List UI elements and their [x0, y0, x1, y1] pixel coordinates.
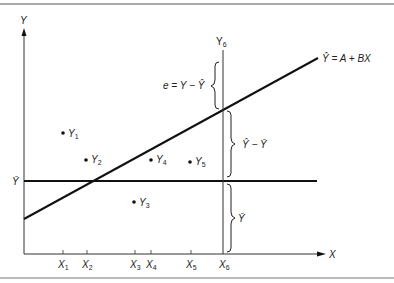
tick-label-x1: X1 — [57, 259, 69, 271]
x-axis-arrow-icon — [317, 252, 326, 257]
data-point-y3: Y3 — [132, 197, 149, 209]
svg-text:Y2: Y2 — [91, 154, 102, 166]
tick-label-x3: X3 — [129, 259, 141, 271]
tick-label-x6: X6 — [218, 259, 230, 271]
x-tick-labels: X1 X2 X3 X4 X5 X6 — [57, 259, 230, 271]
x-ticks — [63, 250, 191, 254]
mean-brace — [227, 184, 235, 252]
explained-brace — [227, 111, 235, 177]
regression-equation: Ŷ = A + BX — [322, 52, 371, 64]
svg-text:Y3: Y3 — [139, 197, 150, 209]
svg-text:Y4: Y4 — [156, 154, 167, 166]
svg-text:Y5: Y5 — [195, 156, 206, 168]
tick-label-x4: X4 — [145, 259, 157, 271]
residual-brace — [211, 62, 219, 109]
data-points: Y1 Y2 Y3 Y4 Y5 — [61, 128, 205, 209]
mean-axis-label: Ȳ — [12, 176, 20, 187]
data-point-y4: Y4 — [149, 154, 166, 166]
y-axis-arrow-icon — [22, 28, 27, 36]
x-axis-label: X — [328, 249, 336, 260]
x-axis: X — [24, 249, 336, 260]
data-point-y5: Y5 — [188, 156, 205, 168]
explained-label: Ŷ − Ȳ — [242, 138, 268, 150]
tick-label-x2: X2 — [81, 259, 93, 271]
tick-label-x5: X5 — [185, 259, 197, 271]
y-axis-label: Y — [20, 15, 28, 26]
data-point-y2: Y2 — [84, 154, 101, 166]
data-point-y1: Y1 — [61, 128, 78, 140]
point-label-y6: Y6 — [216, 36, 227, 48]
residual-label: e = Y − Ŷ — [163, 79, 206, 91]
svg-text:Y1: Y1 — [68, 128, 79, 140]
mean-brace-label: Ȳ — [238, 213, 246, 224]
regression-diagram: Y X X1 X2 X3 X4 X5 X6 Ȳ Ŷ = A + BX Y6 e … — [0, 0, 394, 283]
